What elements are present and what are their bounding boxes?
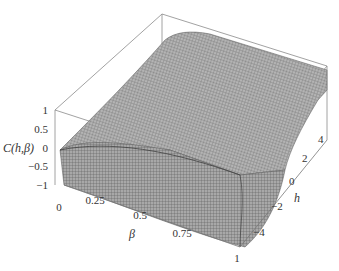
y-tick: −2 <box>271 200 283 212</box>
z-tick: −1 <box>36 179 48 191</box>
y-axis-label: h <box>294 191 300 205</box>
z-tick: 1 <box>43 104 49 116</box>
z-tick: 0.5 <box>34 123 48 135</box>
x-tick: 0 <box>56 201 62 213</box>
z-axis-label: C(h,β) <box>3 141 34 155</box>
y-tick: 0 <box>289 175 295 187</box>
z-tick: −0.5 <box>28 160 48 172</box>
surface-plot: 1 0.5 0 −0.5 −1 C(h,β) 0 0.25 0.5 0.75 1… <box>0 0 339 271</box>
y-tick: −4 <box>253 226 265 238</box>
x-tick: 0.75 <box>172 227 192 239</box>
z-tick: 0 <box>43 142 49 154</box>
z-axis: 1 0.5 0 −0.5 −1 C(h,β) <box>3 104 49 191</box>
y-tick: 2 <box>302 152 308 164</box>
x-tick: 1 <box>234 252 240 264</box>
x-tick: 0.5 <box>133 209 147 221</box>
x-axis-label: β <box>128 227 135 241</box>
y-tick: 4 <box>318 133 324 145</box>
x-tick: 0.25 <box>85 194 105 206</box>
